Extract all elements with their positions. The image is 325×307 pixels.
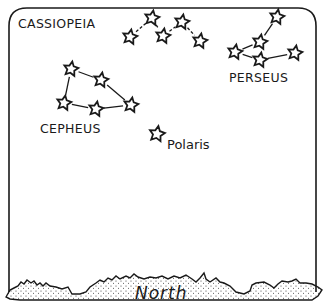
label-polaris: Polaris <box>167 137 210 152</box>
star-icon-perseus <box>253 35 267 49</box>
sky-frame <box>9 8 316 292</box>
constellation-line <box>72 104 88 107</box>
star-icon-cepheus <box>57 96 71 110</box>
star-icon-cassiopeia <box>156 29 170 43</box>
star-chart <box>0 0 325 307</box>
star-icon-cassiopeia <box>193 34 207 48</box>
label-cepheus: CEPHEUS <box>40 121 101 136</box>
constellation-line <box>243 54 253 57</box>
label-perseus: PERSEUS <box>229 70 288 85</box>
constellation-line <box>268 55 287 59</box>
star-icon-cepheus <box>64 62 78 76</box>
constellation-line <box>264 24 272 36</box>
star-icon-cepheus <box>89 102 103 116</box>
constellation-line <box>104 106 123 108</box>
constellation-line <box>79 72 94 77</box>
constellation-line <box>107 85 125 100</box>
label-cassiopeia: CASSIOPEIA <box>18 16 95 31</box>
star-icon-cassiopeia <box>145 11 159 25</box>
star-icon-cepheus <box>124 98 138 112</box>
star-icon-cepheus <box>94 73 108 87</box>
polaris-star-icon <box>150 126 165 141</box>
star-icon-perseus <box>288 46 302 60</box>
constellation-line <box>136 23 146 32</box>
label-north: North <box>135 283 188 303</box>
star-icon-cassiopeia <box>175 15 189 29</box>
constellation-line <box>188 28 195 35</box>
star-icon-perseus <box>253 53 267 67</box>
constellation-line <box>169 27 175 32</box>
constellation-line <box>242 45 252 49</box>
constellation-line <box>156 25 159 29</box>
star-icon-cassiopeia <box>123 30 137 44</box>
star-icon-perseus <box>228 45 242 59</box>
constellation-line <box>66 77 70 95</box>
star-icon-perseus <box>270 10 284 24</box>
